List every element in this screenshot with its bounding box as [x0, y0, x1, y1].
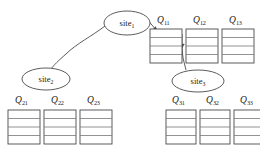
table-q13[interactable]	[222, 29, 254, 63]
diagram-canvas: site1 site2 site3 Q11 Q12 Q13 Q21 Q22 Q2…	[0, 0, 260, 154]
table-label-q11: Q11	[157, 16, 169, 26]
table-q23[interactable]	[80, 110, 112, 144]
table-label-text: Q	[229, 15, 236, 25]
table-label-q21: Q21	[15, 96, 28, 106]
table-label-subscript: 31	[179, 99, 185, 106]
table-label-subscript: 33	[247, 99, 253, 106]
table-label-subscript: 21	[22, 99, 28, 106]
table-label-text: Q	[240, 95, 247, 105]
table-q32[interactable]	[200, 110, 230, 144]
table-label-q33: Q33	[240, 96, 253, 106]
site-label-text: site	[191, 76, 203, 86]
table-label-subscript: 32	[213, 99, 219, 106]
site-label-text: site	[120, 18, 132, 28]
table-label-subscript: 23	[94, 99, 100, 106]
site-label-site3: site3	[182, 77, 214, 86]
table-label-q23: Q23	[87, 96, 100, 106]
site-label-subscript: 3	[203, 81, 206, 87]
table-q31[interactable]	[166, 110, 196, 144]
site-label-text: site	[39, 74, 51, 84]
table-q11[interactable]	[150, 29, 182, 63]
site-label-site1: site1	[111, 19, 143, 28]
table-label-subscript: 13	[236, 19, 242, 26]
table-q22[interactable]	[44, 110, 76, 144]
table-label-text: Q	[193, 15, 200, 25]
table-q12[interactable]	[186, 29, 218, 63]
table-label-subscript: 22	[58, 99, 64, 106]
site-label-site2: site2	[30, 75, 62, 84]
table-label-q22: Q22	[51, 96, 64, 106]
table-label-subscript: 12	[200, 19, 206, 26]
table-label-text: Q	[51, 95, 58, 105]
table-label-text: Q	[172, 95, 179, 105]
table-label-text: Q	[15, 95, 22, 105]
connector-site1-site2	[51, 26, 105, 69]
site-label-subscript: 1	[132, 23, 135, 29]
table-label-q31: Q31	[172, 96, 185, 106]
table-label-text: Q	[87, 95, 94, 105]
table-label-q12: Q12	[193, 16, 206, 26]
table-label-subscript: 11	[164, 19, 170, 26]
table-q21[interactable]	[8, 110, 40, 144]
table-q33[interactable]	[234, 110, 260, 144]
table-label-q13: Q13	[229, 16, 242, 26]
table-label-text: Q	[157, 15, 164, 25]
site-label-subscript: 2	[51, 79, 54, 85]
table-label-q32: Q32	[206, 96, 219, 106]
table-label-text: Q	[206, 95, 213, 105]
